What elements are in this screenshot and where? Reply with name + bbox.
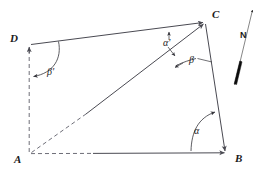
vertex-label-B: B <box>234 152 242 164</box>
north-compass-needle <box>234 61 242 85</box>
angle-label-beta-prime: β' <box>46 66 55 77</box>
diagram-canvas: A B C D α β α' β' N <box>0 0 266 174</box>
edge-A-C-dashed-segment <box>32 114 87 153</box>
angle-label-beta: β <box>188 54 194 65</box>
geometry-figure: A B C D α β α' β' N <box>0 0 266 174</box>
edge-A-C-solid-segment <box>86 24 204 114</box>
vertex-label-A: A <box>13 153 21 165</box>
vertex-label-C: C <box>212 8 220 20</box>
vertex-label-D: D <box>9 32 18 44</box>
edge-C-B <box>206 24 226 151</box>
angle-label-alpha-prime: α' <box>163 37 171 48</box>
edge-A-B-solid-segment <box>93 153 225 154</box>
north-arrow-label: N <box>240 30 247 40</box>
angle-label-alpha: α <box>194 125 200 136</box>
edge-D-C <box>31 23 203 45</box>
angle-leader-beta-to-CB <box>198 59 213 63</box>
